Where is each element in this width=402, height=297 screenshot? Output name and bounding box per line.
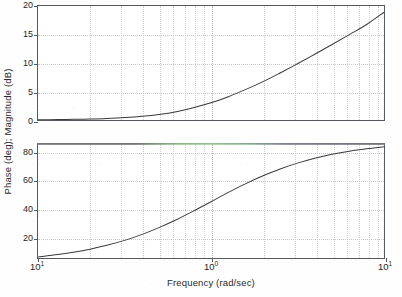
magnitude-plot-area xyxy=(38,6,384,120)
y-tick-label: 10 xyxy=(7,58,33,68)
x-axis-title: Frequency (rad/sec) xyxy=(37,277,385,288)
y-tick-label: 20 xyxy=(7,233,33,243)
y-tick-mark xyxy=(34,153,38,154)
y-tick-label: 5 xyxy=(7,87,33,97)
x-tick-label: 100 xyxy=(204,261,218,272)
phase-curve xyxy=(38,144,384,258)
magnitude-subplot xyxy=(37,5,385,121)
bode-plot-figure: Phase (deg); Magnitude (dB) 05101520 204… xyxy=(0,0,402,297)
y-tick-mark xyxy=(34,64,38,65)
y-tick-label: 15 xyxy=(7,29,33,39)
y-tick-mark xyxy=(34,6,38,7)
y-tick-mark xyxy=(34,210,38,211)
phase-y-ticklabels: 20406080 xyxy=(5,143,33,259)
y-tick-mark xyxy=(34,93,38,94)
phase-plot-area xyxy=(38,144,384,258)
y-tick-label: 20 xyxy=(7,0,33,10)
y-tick-label: 40 xyxy=(7,204,33,214)
y-tick-label: 60 xyxy=(7,175,33,185)
y-tick-label: 80 xyxy=(7,147,33,157)
magnitude-y-ticklabels: 05101520 xyxy=(5,5,33,121)
y-tick-mark xyxy=(34,239,38,240)
magnitude-curve xyxy=(38,6,384,120)
phase-subplot xyxy=(37,143,385,259)
y-tick-mark xyxy=(34,35,38,36)
y-tick-label: 0 xyxy=(7,116,33,126)
y-tick-mark xyxy=(34,122,38,123)
x-tick-label: 101 xyxy=(30,261,44,272)
x-tick-label: 101 xyxy=(378,261,392,272)
y-tick-mark xyxy=(34,181,38,182)
